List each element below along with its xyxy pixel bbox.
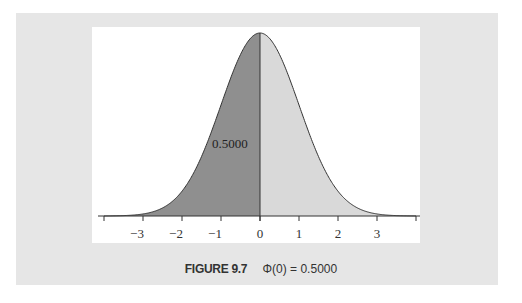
x-axis-tick-labels: −3−2−10123	[130, 226, 380, 241]
figure-caption: FIGURE 9.7 Φ(0) = 0.5000	[0, 262, 522, 276]
shaded-area-right	[260, 33, 416, 216]
area-label: 0.5000	[212, 136, 248, 151]
x-axis-tick-label: −2	[169, 226, 183, 241]
x-axis-tick-label: 2	[335, 226, 342, 241]
x-axis-tick-label: 3	[374, 226, 381, 241]
x-axis-tick-label: 1	[296, 226, 303, 241]
x-axis-tick-label: −1	[208, 226, 222, 241]
normal-curve-chart: −3−2−10123 0.5000	[0, 0, 522, 303]
x-axis-tick-label: 0	[257, 226, 264, 241]
x-axis-ticks	[104, 216, 416, 221]
x-axis-tick-label: −3	[130, 226, 144, 241]
shaded-area-left	[104, 33, 260, 216]
caption-formula: Φ(0) = 0.5000	[263, 262, 338, 276]
figure-number: FIGURE 9.7	[185, 262, 247, 276]
